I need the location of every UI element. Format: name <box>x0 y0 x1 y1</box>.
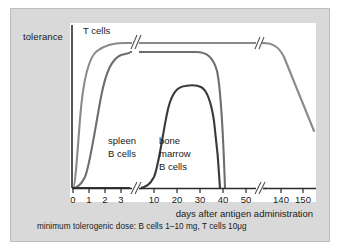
figure-container: tolerance <box>0 0 340 250</box>
series-label-line: B cells <box>108 148 136 159</box>
figure-caption: minimum tolerogenic dose: B cells 1–10 m… <box>37 222 247 231</box>
curve-break-marks-right <box>254 37 265 49</box>
chart-svg: 0 1 2 3 10 20 30 40 50 140 150 T cells s… <box>11 9 331 243</box>
x-tick-label: 40 <box>218 194 229 205</box>
series-line-spleen-b-cells <box>73 52 225 188</box>
x-tick-label: 3 <box>118 194 123 205</box>
figure-panel: tolerance <box>11 9 329 241</box>
x-tick-label: 150 <box>295 194 311 205</box>
series-label-line: bone <box>159 135 180 146</box>
x-axis-break-left <box>130 182 142 194</box>
curve-break-marks-left <box>130 35 142 59</box>
series-layer <box>73 43 314 188</box>
x-axis-title: days after antigen administration <box>176 208 313 219</box>
series-label-spleen-b-cells: spleen B cells <box>108 135 136 159</box>
x-tick-label: 10 <box>149 194 160 205</box>
x-tick-label: 140 <box>273 194 289 205</box>
x-tick-label: 20 <box>172 194 183 205</box>
x-tick-label: 30 <box>195 194 206 205</box>
series-line-t-cells <box>73 43 314 188</box>
x-tick-label: 0 <box>70 194 75 205</box>
series-label-line: B cells <box>159 161 187 172</box>
series-label-line: marrow <box>159 148 191 159</box>
series-label-line: spleen <box>108 135 136 146</box>
x-tick-labels: 0 1 2 3 10 20 30 40 50 140 150 <box>70 194 311 205</box>
series-label-bone-marrow-b-cells: bone marrow B cells <box>159 135 191 172</box>
figure-frame: tolerance <box>10 8 330 242</box>
series-label-t-cells: T cells <box>83 25 111 36</box>
x-axis-break-right <box>254 182 266 194</box>
x-tick-label: 2 <box>102 194 107 205</box>
x-tick-label: 50 <box>241 194 252 205</box>
x-tick-label: 1 <box>86 194 91 205</box>
